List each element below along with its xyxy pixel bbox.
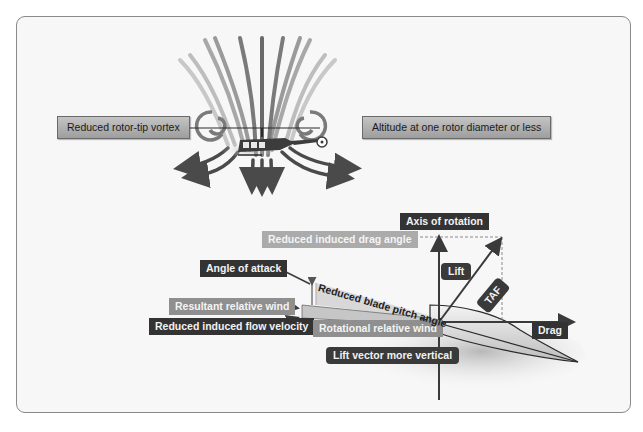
lift-label: Lift xyxy=(441,263,471,280)
drag-label: Drag xyxy=(532,322,568,339)
reduced-induced-drag-angle-label: Reduced induced drag angle xyxy=(262,231,418,248)
resultant-relative-wind-label: Resultant relative wind xyxy=(169,298,295,315)
reduced-induced-flow-velocity-label: Reduced induced flow velocity xyxy=(149,318,314,335)
axis-of-rotation-label: Axis of rotation xyxy=(400,213,489,230)
blade-vector-diagram xyxy=(0,0,643,432)
angle-of-attack-label: Angle of attack xyxy=(200,260,287,277)
lift-vector-more-vertical-label: Lift vector more vertical xyxy=(326,347,459,364)
